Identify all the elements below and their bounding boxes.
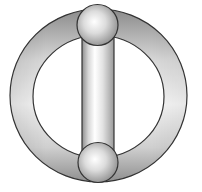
- diagram-svg: [0, 0, 202, 192]
- ring-bar-diagram: [0, 0, 202, 192]
- sphere-bottom: [78, 143, 118, 183]
- sphere-top: [77, 5, 118, 46]
